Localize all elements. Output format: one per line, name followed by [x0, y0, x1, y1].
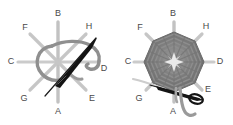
label-right-B: B [170, 8, 176, 18]
diagram-canvas: A B C D E F G H [0, 0, 233, 125]
panel-right: A B C D E F G H [125, 8, 224, 116]
label-left-F: F [22, 22, 28, 32]
label-left-G: G [20, 93, 27, 103]
thread-tail-hook-inner [176, 88, 177, 102]
center-star [164, 52, 184, 72]
label-right-H: H [203, 21, 210, 31]
label-left-C: C [8, 56, 15, 66]
figure-root: A B C D E F G H [0, 0, 233, 125]
label-left-B: B [55, 8, 61, 18]
label-right-F: F [137, 22, 143, 32]
thread-tail-end [70, 74, 82, 79]
label-left-E: E [89, 93, 95, 103]
label-right-E: E [205, 84, 211, 94]
label-right-A: A [170, 106, 176, 116]
label-right-C: C [125, 56, 132, 66]
spoke-frame-left [18, 22, 98, 102]
panel-left: A B C D E F G H [8, 8, 108, 116]
label-left-H: H [86, 21, 93, 31]
label-right-G: G [135, 93, 142, 103]
label-left-D: D [101, 63, 108, 73]
label-right-D: D [217, 56, 224, 66]
label-left-A: A [55, 106, 61, 116]
